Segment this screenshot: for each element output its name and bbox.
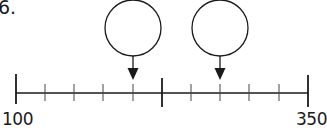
max-label: 350 — [296, 110, 327, 128]
answer-circle-2[interactable] — [192, 0, 248, 56]
arrow-down-icon — [128, 56, 139, 80]
answer-circle-1[interactable] — [105, 0, 161, 56]
arrow-down-icon — [215, 56, 226, 80]
min-label: 100 — [2, 110, 33, 128]
